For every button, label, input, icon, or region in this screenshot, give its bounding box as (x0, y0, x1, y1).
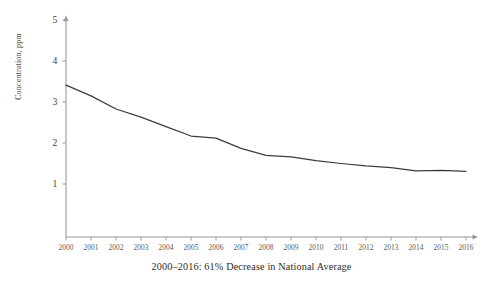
svg-text:2001: 2001 (84, 243, 99, 252)
x-axis: 2000200120022003200420052006200720082009… (59, 234, 478, 252)
svg-text:2015: 2015 (434, 243, 449, 252)
svg-text:2010: 2010 (309, 243, 324, 252)
svg-text:2012: 2012 (359, 243, 374, 252)
svg-text:2003: 2003 (134, 243, 149, 252)
data-series-line (66, 85, 466, 171)
svg-text:1: 1 (53, 178, 58, 189)
svg-text:2013: 2013 (384, 243, 399, 252)
svg-text:4: 4 (53, 55, 58, 66)
svg-text:2011: 2011 (334, 243, 349, 252)
svg-text:2004: 2004 (159, 243, 174, 252)
svg-text:2005: 2005 (184, 243, 199, 252)
chart-caption: 2000–2016: 61% Decrease in National Aver… (0, 261, 503, 272)
svg-text:2000: 2000 (59, 243, 74, 252)
svg-text:5: 5 (53, 14, 58, 25)
svg-text:2007: 2007 (234, 243, 249, 252)
svg-text:3: 3 (53, 96, 58, 107)
svg-text:2016: 2016 (459, 243, 474, 252)
svg-text:2009: 2009 (284, 243, 299, 252)
chart-container: Concentration, ppm 12345 200020012002200… (0, 0, 503, 283)
svg-text:2002: 2002 (109, 243, 124, 252)
y-axis: 12345 (53, 14, 69, 237)
svg-text:2: 2 (53, 137, 58, 148)
line-chart-plot: 12345 2000200120022003200420052006200720… (0, 0, 503, 283)
svg-text:2006: 2006 (209, 243, 224, 252)
svg-text:2014: 2014 (409, 243, 424, 252)
svg-text:2008: 2008 (259, 243, 274, 252)
